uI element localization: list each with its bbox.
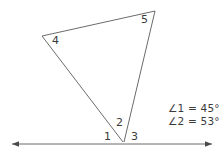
- segment-left-to-top: [42, 11, 155, 36]
- segment-left-to-bottom: [42, 36, 123, 142]
- angle-1-measure: ∠1 = 45°: [168, 102, 220, 115]
- angle-label-3: 3: [131, 131, 138, 142]
- diagram-svg: [0, 0, 224, 154]
- left-arrowhead-icon: [12, 141, 19, 146]
- angle-label-5: 5: [141, 14, 148, 25]
- right-arrowhead-icon: [205, 141, 212, 146]
- angle-label-4: 4: [52, 35, 59, 46]
- horizontal-ray-line: [12, 141, 212, 146]
- segment-top-to-bottom: [124, 11, 155, 142]
- angle-2-measure: ∠2 = 53°: [168, 115, 220, 128]
- angle-label-2: 2: [116, 117, 123, 128]
- angle-measure-legend: ∠1 = 45° ∠2 = 53°: [168, 102, 220, 127]
- geometry-diagram-canvas: 1 2 3 4 5 ∠1 = 45° ∠2 = 53°: [0, 0, 224, 154]
- angle-label-1: 1: [104, 131, 111, 142]
